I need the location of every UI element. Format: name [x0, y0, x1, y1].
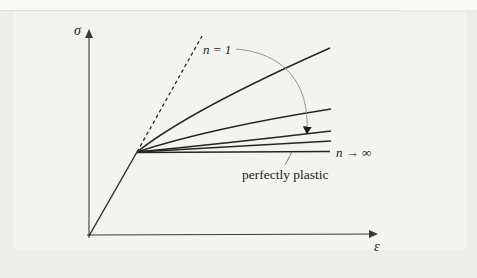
- perfectly-plastic-label: perfectly plastic: [242, 167, 329, 182]
- perfectly-plastic-line: [137, 152, 330, 153]
- sigma-axis-label: σ: [74, 23, 82, 38]
- figure-panel: [14, 12, 466, 250]
- epsilon-axis-label: ε: [374, 239, 380, 254]
- n-equals-1-label: n = 1: [203, 42, 231, 57]
- textbook-figure-scan: σ ε n = 1 n → ∞ perfectly plastic: [0, 0, 477, 278]
- n-to-infinity-label: n → ∞: [336, 145, 371, 160]
- stress-strain-diagram: σ ε n = 1 n → ∞ perfectly plastic: [0, 0, 477, 278]
- page-edge-strip: [0, 0, 477, 10]
